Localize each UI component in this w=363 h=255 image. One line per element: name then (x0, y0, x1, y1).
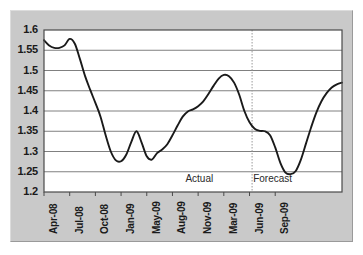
x-axis-tick-label: Jan-09 (125, 204, 136, 235)
x-axis-tick-label: May-09 (151, 201, 162, 234)
x-axis-tick-label: Oct-08 (99, 204, 110, 234)
y-axis-tick-label: 1.3 (8, 145, 38, 157)
y-axis-tick-label: 1.35 (8, 124, 38, 136)
y-axis-tick-label: 1.4 (8, 104, 38, 116)
chart-figure: 1.21.251.31.351.41.451.51.551.6 Apr-08Ju… (0, 0, 363, 255)
x-axis-tick-label: Jul-08 (74, 206, 85, 234)
y-axis-tick-label: 1.55 (8, 43, 38, 55)
annotation-actual: Actual (185, 173, 213, 184)
x-axis-tick-label: Mar-09 (228, 203, 239, 234)
x-axis-tick-label: Apr-08 (48, 204, 59, 234)
y-axis-tick-label: 1.45 (8, 84, 38, 96)
x-axis-tick-label: Nov-09 (202, 202, 213, 234)
annotation-forecast: Forecast (253, 173, 292, 184)
x-axis-tick-label: Aug-09 (176, 201, 187, 234)
x-tickmarks-group (44, 192, 275, 196)
y-axis-tick-label: 1.5 (8, 64, 38, 76)
x-axis-tick-label: Sep-09 (279, 202, 290, 234)
y-axis-tick-label: 1.6 (8, 23, 38, 35)
y-axis-tick-label: 1.2 (8, 185, 38, 197)
x-axis-tick-label: Jun-09 (254, 203, 265, 234)
y-axis-tick-label: 1.25 (8, 165, 38, 177)
